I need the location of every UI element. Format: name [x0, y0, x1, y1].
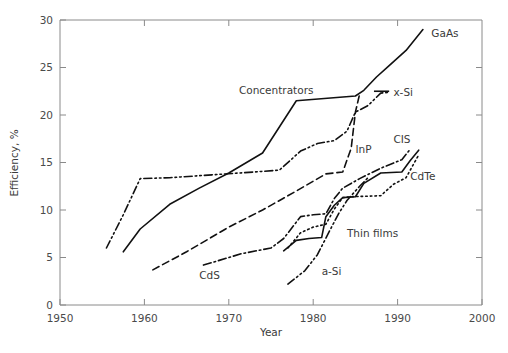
- y-tick-label-25: 25: [40, 61, 53, 73]
- series-line-gaas: [123, 30, 423, 252]
- y-tick-label-20: 20: [40, 109, 53, 121]
- series-label-gaas: GaAs: [431, 27, 458, 39]
- series-line-cds: [203, 149, 410, 265]
- series-label-a-si: a-Si: [322, 265, 342, 277]
- x-tick-label-1990: 1990: [384, 312, 411, 324]
- series-label-cdte: CdTe: [410, 170, 435, 182]
- y-tick-label-5: 5: [46, 251, 53, 263]
- series-label-thin-films: Thin films: [346, 227, 398, 239]
- x-tick-label-2000: 2000: [469, 312, 496, 324]
- series-label-cds: CdS: [199, 269, 220, 281]
- x-tick-label-1950: 1950: [47, 312, 74, 324]
- y-tick-label-0: 0: [46, 299, 53, 311]
- series-label-concentrators: Concentrators: [239, 84, 313, 96]
- x-tick-label-1960: 1960: [131, 312, 158, 324]
- series-label-cis: CIS: [393, 133, 410, 145]
- x-axis-title: Year: [259, 326, 283, 338]
- series-label-inp: InP: [355, 143, 371, 155]
- chart-container: 051015202530195019601970198019902000 GaA…: [0, 0, 508, 353]
- series-label-x-si: x-Si: [393, 86, 413, 98]
- y-tick-label-15: 15: [40, 156, 53, 168]
- plot-frame: [60, 20, 482, 305]
- y-tick-label-10: 10: [40, 204, 53, 216]
- x-tick-label-1970: 1970: [215, 312, 242, 324]
- series-line-x-si: [106, 92, 389, 248]
- x-tick-label-1980: 1980: [300, 312, 327, 324]
- series-line-inp: [153, 94, 360, 270]
- y-tick-label-30: 30: [40, 14, 53, 26]
- y-axis-title: Efficiency, %: [8, 129, 20, 196]
- efficiency-vs-year-line-chart: 051015202530195019601970198019902000 GaA…: [0, 0, 508, 353]
- series-layer: [106, 30, 423, 285]
- series-labels-layer: GaAsConcentratorsx-SiInPCdSCISCdTea-SiTh…: [199, 27, 458, 281]
